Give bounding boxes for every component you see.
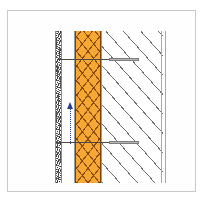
layer-exterior-finish-label: Exterior finish / render <box>56 31 57 32</box>
layer-structural-wall-label: Structural masonry wall <box>102 31 103 32</box>
wall-tie-upper-plate <box>109 58 139 61</box>
drawing-frame: Exterior finish / render Ventilated cavi… <box>7 10 196 192</box>
airflow-arrow-icon: Air flow direction <box>66 102 75 144</box>
wall-tie-upper-bar <box>57 59 115 60</box>
detail-drawing-page: Exterior finish / render Ventilated cavi… <box>0 0 204 202</box>
wall-tie-upper: Wall tie <box>57 58 139 61</box>
structural-wall-inner-edge-line <box>161 31 162 183</box>
airflow-arrow-stem <box>70 109 71 144</box>
layer-cavity-label: Ventilated cavity <box>62 31 63 32</box>
layer-structural-wall: Structural masonry wall <box>101 31 163 183</box>
layer-exterior-finish: Exterior finish / render <box>55 31 62 183</box>
wall-tie-lower-plate <box>109 141 139 144</box>
wall-section-drawing: Exterior finish / render Ventilated cavi… <box>49 31 171 183</box>
airflow-arrow-head-icon <box>67 102 73 109</box>
layer-insulation: Insulation <box>75 31 101 183</box>
structural-wall-face-line <box>165 31 166 183</box>
layer-insulation-label: Insulation <box>76 31 77 32</box>
